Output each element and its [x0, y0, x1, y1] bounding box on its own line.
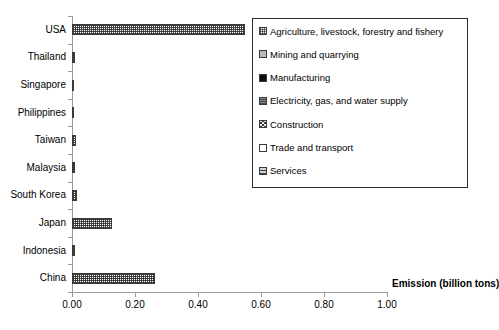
- bar: [72, 135, 76, 146]
- legend-item[interactable]: Trade and transport: [259, 142, 353, 154]
- x-axis-tick: [324, 293, 325, 297]
- bar: [72, 107, 74, 118]
- legend-swatch-icon: [259, 50, 267, 58]
- y-axis-category-label: Thailand: [0, 51, 66, 62]
- x-axis-tick: [387, 293, 388, 297]
- legend-item-label: Construction: [270, 119, 323, 130]
- y-axis-tick: [68, 44, 72, 45]
- y-axis-category-label: South Korea: [0, 189, 66, 200]
- legend-item-label: Electricity, gas, and water supply: [270, 95, 408, 106]
- x-axis-tick: [135, 293, 136, 297]
- bar: [72, 245, 75, 256]
- y-axis-category-label: Indonesia: [0, 245, 66, 256]
- bar: [72, 218, 112, 229]
- y-axis-category-label: Taiwan: [0, 134, 66, 145]
- bar: [72, 52, 75, 63]
- legend-item[interactable]: Mining and quarrying: [259, 48, 359, 60]
- legend-swatch-icon: [259, 74, 267, 82]
- x-axis-tick: [261, 293, 262, 297]
- y-axis-category-label: Malaysia: [0, 162, 66, 173]
- y-axis-tick: [68, 182, 72, 183]
- bar: [72, 80, 74, 91]
- bar: [72, 24, 245, 35]
- x-axis-tick-label: 0.60: [241, 299, 281, 311]
- bar: [72, 273, 155, 284]
- x-axis-tick-label: 0.20: [115, 299, 155, 311]
- x-axis-line: [72, 292, 388, 293]
- y-axis-tick: [68, 126, 72, 127]
- x-axis-tick: [72, 293, 73, 297]
- x-axis-title: Emission (billion tons): [392, 278, 499, 290]
- x-axis-tick-label: 0.80: [304, 299, 344, 311]
- y-axis-tick: [68, 264, 72, 265]
- legend-swatch-icon: [259, 167, 267, 175]
- legend-item-label: Services: [270, 165, 306, 176]
- bar: [72, 190, 77, 201]
- legend-item[interactable]: Services: [259, 165, 306, 177]
- y-axis-tick: [68, 209, 72, 210]
- y-axis-tick: [68, 154, 72, 155]
- legend-item-label: Agriculture, livestock, forestry and fis…: [270, 26, 443, 37]
- legend-item-label: Trade and transport: [270, 142, 353, 153]
- x-axis-tick-label: 1.00: [367, 299, 407, 311]
- legend-item[interactable]: Construction: [259, 118, 323, 130]
- y-axis-category-label: Philippines: [0, 107, 66, 118]
- x-axis-tick-label: 0.40: [178, 299, 218, 311]
- legend-item[interactable]: Agriculture, livestock, forestry and fis…: [259, 25, 443, 37]
- x-axis-tick-label: 0.00: [52, 299, 92, 311]
- x-axis-tick: [198, 293, 199, 297]
- y-axis-category-label: Japan: [0, 217, 66, 228]
- legend-swatch-icon: [259, 120, 267, 128]
- y-axis-tick: [68, 99, 72, 100]
- bar: [72, 162, 75, 173]
- y-axis-category-label: Singapore: [0, 79, 66, 90]
- legend-item[interactable]: Electricity, gas, and water supply: [259, 95, 408, 107]
- y-axis-tick: [68, 16, 72, 17]
- legend-item-label: Manufacturing: [270, 72, 330, 83]
- legend-swatch-icon: [259, 27, 267, 35]
- legend-item-label: Mining and quarrying: [270, 49, 359, 60]
- legend-swatch-icon: [259, 97, 267, 105]
- y-axis-tick: [68, 71, 72, 72]
- legend-item[interactable]: Manufacturing: [259, 72, 330, 84]
- y-axis-category-label: China: [0, 272, 66, 283]
- y-axis-category-label: USA: [0, 24, 66, 35]
- legend: Agriculture, livestock, forestry and fis…: [252, 18, 468, 188]
- legend-swatch-icon: [259, 144, 267, 152]
- y-axis-tick: [68, 237, 72, 238]
